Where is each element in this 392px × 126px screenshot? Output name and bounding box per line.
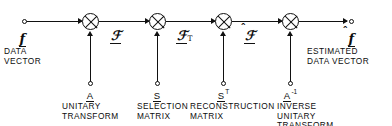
input-terminal[interactable] <box>22 19 27 24</box>
wire-mult3-to-mult4 <box>232 21 282 22</box>
stage-caption-3: RECONSTRUCTION MATRIX <box>190 102 275 121</box>
wire-mult4-to-output <box>299 21 347 22</box>
arrowhead-up-3 <box>220 31 226 36</box>
wire-mult2-to-mult3 <box>166 21 215 22</box>
operator-terminal-1[interactable] <box>88 81 93 86</box>
path-symbol-3: ℱ <box>244 29 255 44</box>
wire-operator-2 <box>157 36 158 83</box>
path-symbol-2: ℱT <box>176 29 192 44</box>
wire-operator-4 <box>290 36 291 83</box>
operator-terminal-2[interactable] <box>155 81 160 86</box>
operator-terminal-3[interactable] <box>221 81 226 86</box>
input-caption: DATA VECTOR <box>4 47 41 66</box>
stage-caption-1: UNITARY TRANSFORM <box>62 102 119 121</box>
stage-caption-4: INVERSE UNITARY TRANSFORM <box>277 102 334 126</box>
multiplier-node-unitary-transform[interactable] <box>82 13 99 30</box>
path-symbol-1: ℱ <box>110 29 121 44</box>
path-symbol-3-glyph: ℱ <box>244 29 255 44</box>
stage-caption-2: SELECTION MATRIX <box>137 102 188 121</box>
arrowhead-up-4 <box>287 31 293 36</box>
arrowhead-into-output <box>343 18 348 24</box>
wire-input-to-mult1 <box>26 21 82 22</box>
output-caption: ESTIMATED DATA VECTOR <box>307 47 369 66</box>
operator-symbol-4-superscript: -1 <box>291 88 297 95</box>
path-symbol-2-glyph: ℱ <box>176 29 187 44</box>
arrowhead-up-1 <box>87 31 93 36</box>
output-vector-glyph: f <box>348 32 355 47</box>
signal-flow-diagram: f DATA VECTOR ℱ ℱT ̂ ℱ ̂ f ESTIMATED DAT… <box>0 0 392 126</box>
wire-operator-3 <box>223 36 224 83</box>
multiplier-node-reconstruction-matrix[interactable] <box>215 13 232 30</box>
wire-operator-1 <box>90 36 91 83</box>
path-symbol-1-glyph: ℱ <box>110 29 121 44</box>
operator-symbol-3-superscript: T <box>225 88 229 95</box>
multiplier-node-selection-matrix[interactable] <box>149 13 166 30</box>
operator-terminal-4[interactable] <box>288 81 293 86</box>
input-vector-glyph: f <box>19 32 26 47</box>
arrowhead-up-2 <box>154 31 160 36</box>
path-symbol-2-subscript: T <box>188 34 193 43</box>
output-vector-symbol: f <box>348 32 355 47</box>
multiplier-node-inverse-unitary-transform[interactable] <box>282 13 299 30</box>
wire-mult1-to-mult2 <box>99 21 149 22</box>
output-terminal[interactable] <box>349 19 354 24</box>
input-vector-symbol: f <box>19 32 26 47</box>
